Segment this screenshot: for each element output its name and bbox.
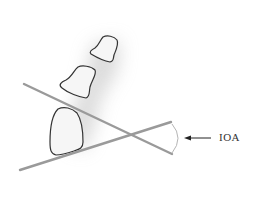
ioa-label: IOA (219, 131, 240, 143)
bone-proximal-large (50, 108, 83, 155)
line-lower (20, 122, 171, 170)
ioa-diagram (0, 0, 257, 197)
angle-arc (172, 124, 178, 153)
pointer-arrowhead-icon (184, 136, 191, 141)
